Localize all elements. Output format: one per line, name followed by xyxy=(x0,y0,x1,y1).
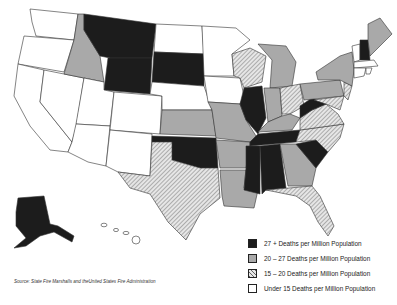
source-note: Source: State Fire Marshalls and theUnit… xyxy=(14,279,156,284)
state-ks xyxy=(160,110,216,136)
state-co xyxy=(110,92,162,134)
swatch-white-icon xyxy=(248,284,257,293)
legend-item-under15: Under 15 Deaths per Million Population xyxy=(248,281,397,296)
state-wy xyxy=(104,58,152,94)
swatch-gray-icon xyxy=(248,254,257,263)
state-az xyxy=(68,124,110,166)
legend-item-20-27: 20 – 27 Deaths per Million Population xyxy=(248,251,397,266)
state-hi xyxy=(101,223,140,244)
state-wa xyxy=(30,9,78,40)
state-ct xyxy=(354,68,366,78)
state-vt xyxy=(352,44,360,62)
legend-item-27plus: 27 + Deaths per Million Population xyxy=(248,236,397,251)
state-ak xyxy=(14,196,74,248)
state-me xyxy=(368,18,392,56)
swatch-black-icon xyxy=(248,239,257,248)
state-fl xyxy=(266,186,334,236)
legend-item-15-20: 15 – 20 Deaths per Million Population xyxy=(248,266,397,281)
state-ar xyxy=(216,140,250,168)
legend: 27 + Deaths per Million Population 20 – … xyxy=(248,236,397,296)
state-ri xyxy=(366,68,372,74)
state-nd xyxy=(154,24,204,54)
state-nm xyxy=(106,130,152,176)
state-ia xyxy=(204,76,244,104)
state-sd xyxy=(152,52,204,86)
state-ms xyxy=(244,146,260,194)
swatch-hatched-icon xyxy=(248,269,257,278)
state-ma xyxy=(354,60,378,68)
